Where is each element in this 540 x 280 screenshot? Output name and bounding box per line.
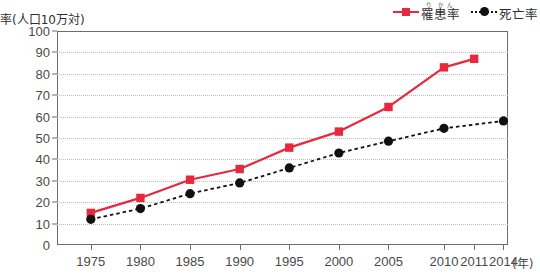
x-tick-mark — [444, 245, 445, 250]
chart-root: 率(人口10万対) り かん 罹患率 あ 死亡率 010203040506070… — [0, 0, 540, 280]
legend-marker-circle-icon — [471, 6, 497, 17]
y-tick-label: 10 — [36, 216, 50, 231]
x-axis-unit-label: (年) — [512, 254, 533, 271]
y-tick-label: 20 — [36, 195, 50, 210]
legend-item-incidence: り かん 罹患率 — [393, 2, 460, 22]
data-point-circle — [334, 148, 343, 157]
legend-marker-square-icon — [393, 6, 419, 17]
legend-label-incidence: り かん 罹患率 — [421, 2, 460, 22]
y-tick-label: 0 — [43, 238, 50, 253]
data-point-square — [335, 127, 343, 135]
y-tick-label: 70 — [36, 88, 50, 103]
data-point-circle — [185, 189, 194, 198]
data-point-square — [285, 143, 293, 151]
x-tick-mark — [289, 245, 290, 250]
x-tick-label: 2000 — [324, 254, 353, 269]
x-tick-mark — [388, 245, 389, 250]
x-tick-label: 1990 — [225, 254, 254, 269]
x-tick-label: 1985 — [176, 254, 205, 269]
plot-area: 0102030405060708090100 19751980198519901… — [57, 31, 508, 245]
legend-text-incidence: 罹患率 — [421, 9, 460, 22]
data-point-circle — [285, 163, 294, 172]
chart-legend: り かん 罹患率 あ 死亡率 — [393, 2, 538, 22]
x-tick-label: 2005 — [374, 254, 403, 269]
data-point-square — [235, 165, 243, 173]
data-point-square — [186, 176, 194, 184]
y-tick-label: 30 — [36, 173, 50, 188]
y-tick-label: 90 — [36, 45, 50, 60]
data-point-circle — [136, 204, 145, 213]
data-point-circle — [86, 215, 95, 224]
x-tick-label: 1995 — [275, 254, 304, 269]
y-tick-label: 100 — [28, 24, 50, 39]
x-tick-mark — [503, 245, 504, 250]
data-point-circle — [439, 124, 448, 133]
data-point-circle — [499, 116, 508, 125]
y-tick-label: 80 — [36, 66, 50, 81]
x-tick-label: 1980 — [126, 254, 155, 269]
x-tick-label: 2011 — [460, 254, 488, 269]
x-tick-mark — [474, 245, 475, 250]
legend-label-mortality: あ 死亡率 — [499, 2, 538, 22]
x-tick-label: 2010 — [429, 254, 458, 269]
data-point-square — [470, 55, 478, 63]
legend-item-mortality: あ 死亡率 — [471, 2, 538, 22]
x-tick-mark — [190, 245, 191, 250]
y-tick-label: 40 — [36, 152, 50, 167]
x-tick-mark — [91, 245, 92, 250]
data-point-square — [384, 103, 392, 111]
data-point-square — [440, 63, 448, 71]
data-point-circle — [235, 178, 244, 187]
data-point-circle — [384, 137, 393, 146]
y-tick-label: 60 — [36, 109, 50, 124]
data-point-square — [136, 194, 144, 202]
legend-text-mortality: 死亡率 — [499, 9, 538, 22]
x-tick-label: 1975 — [76, 254, 105, 269]
series-line — [91, 121, 504, 219]
x-tick-mark — [339, 245, 340, 250]
x-tick-mark — [140, 245, 141, 250]
series-layer — [57, 31, 508, 245]
series-line — [91, 59, 474, 213]
x-tick-mark — [240, 245, 241, 250]
y-tick-label: 50 — [36, 131, 50, 146]
